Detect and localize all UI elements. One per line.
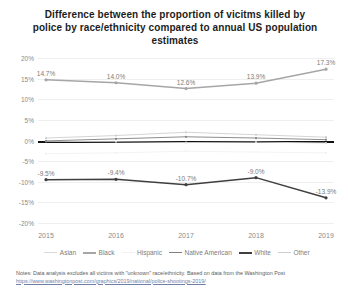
gridline xyxy=(38,223,334,224)
data-point-asian xyxy=(185,141,187,143)
footnote-url[interactable]: https://www.washingtonpost.com/graphics/… xyxy=(16,278,206,284)
data-label: -10.7% xyxy=(176,175,197,182)
data-point-white xyxy=(114,178,117,181)
data-point-white xyxy=(254,176,257,179)
data-point-hispanic xyxy=(115,152,117,154)
data-point-other xyxy=(185,131,187,133)
y-axis-tick-label: -20% xyxy=(19,220,34,227)
data-point-native-american xyxy=(185,136,187,138)
legend-swatch-icon xyxy=(44,252,57,253)
y-axis-tick-label: 15% xyxy=(21,75,34,82)
legend-item-white[interactable]: White xyxy=(239,249,271,256)
data-label: 13.9% xyxy=(247,73,265,80)
data-point-native-american xyxy=(255,137,257,139)
x-axis-tick-label: 2016 xyxy=(108,232,124,239)
data-point-black xyxy=(44,78,47,81)
data-point-other xyxy=(325,136,327,138)
x-axis-tick-label: 2018 xyxy=(248,232,264,239)
data-point-asian xyxy=(325,142,327,144)
legend-item-black[interactable]: Black xyxy=(83,249,114,256)
x-axis-tick-label: 2015 xyxy=(38,232,54,239)
data-label: 12.6% xyxy=(177,79,195,86)
data-point-native-american xyxy=(115,138,117,140)
data-point-white xyxy=(184,183,187,186)
data-label: 17.3% xyxy=(317,59,335,66)
legend-label: Asian xyxy=(60,249,76,256)
data-label: -9.4% xyxy=(108,169,125,176)
data-point-native-american xyxy=(325,139,327,141)
legend-swatch-icon xyxy=(278,252,291,253)
y-axis-tick-label: -5% xyxy=(22,158,34,165)
data-point-black xyxy=(114,81,117,84)
data-point-hispanic xyxy=(185,150,187,152)
y-axis-tick-label: 5% xyxy=(25,116,34,123)
data-point-native-american xyxy=(45,140,47,142)
data-label: 14.7% xyxy=(37,70,55,77)
legend-label: Hispanic xyxy=(137,249,162,256)
data-point-other xyxy=(45,137,47,139)
y-axis-tick-label: -10% xyxy=(19,178,34,185)
footnote: Notes: Data analysis excludes all victim… xyxy=(16,270,332,285)
legend-item-asian[interactable]: Asian xyxy=(44,249,76,256)
data-point-white xyxy=(324,196,327,199)
legend: AsianBlackHispanicNative AmericanWhiteOt… xyxy=(24,249,330,256)
y-axis-tick-label: 20% xyxy=(21,55,34,62)
data-point-hispanic xyxy=(325,152,327,154)
legend-swatch-icon xyxy=(122,252,135,253)
y-axis-tick-label: 0% xyxy=(25,137,34,144)
legend-swatch-icon xyxy=(169,252,182,253)
legend-label: Other xyxy=(293,249,309,256)
footnote-text: Notes: Data analysis excludes all victim… xyxy=(16,270,285,276)
data-point-black xyxy=(184,87,187,90)
data-point-black xyxy=(254,82,257,85)
data-point-asian xyxy=(115,141,117,143)
y-axis-tick-label: -15% xyxy=(19,199,34,206)
data-point-black xyxy=(324,68,327,71)
legend-label: White xyxy=(254,249,271,256)
legend-label: Native American xyxy=(184,249,231,256)
data-point-hispanic xyxy=(255,151,257,153)
data-label: 14.0% xyxy=(107,73,125,80)
y-axis-tick-label: 10% xyxy=(21,96,34,103)
legend-item-native-american[interactable]: Native American xyxy=(169,249,232,256)
legend-swatch-icon xyxy=(239,252,252,254)
data-point-hispanic xyxy=(45,153,47,155)
data-label: -9.5% xyxy=(38,170,55,177)
legend-item-hispanic[interactable]: Hispanic xyxy=(122,249,162,256)
plot-area: 20%15%10%5%0%-5%-10%-15%-20% 14.7%14.0%1… xyxy=(38,58,334,223)
x-axis-tick-label: 2017 xyxy=(178,232,194,239)
data-label: -9.0% xyxy=(248,168,265,175)
data-point-asian xyxy=(255,141,257,143)
legend-label: Black xyxy=(99,249,115,256)
data-point-other xyxy=(255,134,257,136)
data-label: -13.9% xyxy=(316,188,337,195)
data-point-other xyxy=(115,134,117,136)
data-point-white xyxy=(44,178,47,181)
legend-item-other[interactable]: Other xyxy=(278,249,310,256)
chart-container: Difference between the proportion of vic… xyxy=(0,0,348,292)
legend-swatch-icon xyxy=(83,252,96,254)
chart-title: Difference between the proportion of vic… xyxy=(30,8,320,47)
x-axis-tick-label: 2019 xyxy=(318,232,334,239)
